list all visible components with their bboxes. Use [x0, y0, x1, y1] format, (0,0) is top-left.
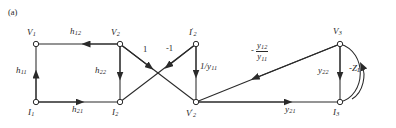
edge-label-y22: y22: [318, 66, 328, 76]
edge-label-y21: y21: [285, 105, 295, 115]
node-label-V3: V3: [333, 27, 342, 37]
fraction-sign: -: [251, 46, 254, 55]
edge-label-negative-ZL: -ZL: [349, 64, 361, 74]
figure-tag: (a): [8, 8, 17, 17]
node-I1: [33, 99, 38, 104]
fraction-numerator: y12: [256, 41, 268, 51]
edge-label-y12-over-y11: - y12 y11: [256, 41, 268, 62]
node-label-V2-prime: V'2: [186, 108, 196, 118]
node-label-I3: I3: [333, 108, 339, 118]
fraction-denominator: y11: [256, 52, 268, 62]
node-label-I1: I1: [28, 108, 34, 118]
node-V1: [33, 41, 38, 46]
edge-label-negative-one: -1: [166, 44, 173, 53]
node-V2p: [193, 99, 198, 104]
node-I2p: [193, 41, 198, 46]
node-label-V1: V1: [27, 28, 36, 38]
node-label-V2: V2: [111, 28, 120, 38]
edge-label-h12: h12: [70, 27, 81, 37]
edge-label-h11: h11: [16, 66, 27, 76]
node-I3: [337, 99, 342, 104]
node-I2: [117, 99, 122, 104]
node-label-I2-prime: I'2: [189, 27, 197, 37]
edge-label-inverse-y11: 1/y11: [200, 62, 217, 72]
figure-canvas: (a) V1 V2 I'2 V3 I1 I2 V'2 I3 h12 h11 h2…: [0, 0, 396, 128]
edge-label-one: 1: [143, 45, 147, 54]
node-label-I2: I2: [112, 108, 118, 118]
edge-label-h21: h21: [72, 105, 83, 115]
node-V2: [117, 41, 122, 46]
edge-label-h22: h22: [95, 66, 106, 76]
node-V3: [337, 41, 342, 46]
